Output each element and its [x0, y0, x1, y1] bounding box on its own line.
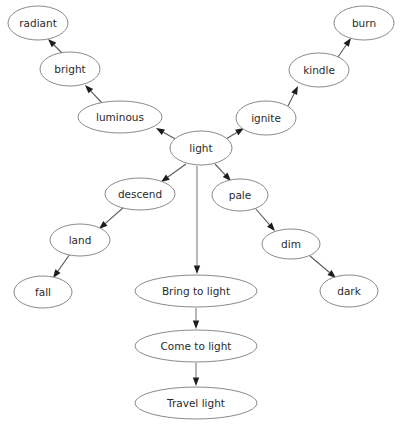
node-label: ignite — [251, 112, 281, 124]
edge-line — [105, 207, 124, 223]
node-bright[interactable]: bright — [40, 52, 100, 86]
node-kindle[interactable]: kindle — [289, 53, 349, 87]
node-burn[interactable]: burn — [334, 6, 394, 40]
edge-light-to-descend — [161, 164, 186, 182]
edge-line — [58, 254, 70, 271]
edge-line — [54, 45, 62, 53]
edge-light-to-pale — [215, 164, 231, 181]
node-label: kindle — [303, 64, 335, 76]
node-label: luminous — [96, 111, 144, 123]
edge-ignite-to-kindle — [288, 86, 298, 106]
edge-descend-to-land — [99, 207, 124, 229]
arrow-head-icon — [194, 266, 200, 275]
arrow-head-icon — [161, 174, 170, 182]
node-land[interactable]: land — [50, 224, 110, 256]
edge-dim-to-dark — [310, 256, 336, 278]
edge-line — [168, 164, 186, 177]
node-ignite[interactable]: ignite — [236, 101, 296, 135]
arrow-head-icon — [291, 86, 298, 95]
node-label: Come to light — [161, 340, 232, 352]
node-label: burn — [352, 17, 376, 29]
node-dim[interactable]: dim — [262, 229, 320, 259]
node-label: Bring to light — [162, 285, 230, 297]
node-fall[interactable]: fall — [14, 276, 72, 308]
node-light[interactable]: light — [170, 131, 232, 165]
concept-graph-canvas: radiantburnbrightkindleluminousignitelig… — [0, 0, 400, 426]
edge-light-to-luminous — [156, 128, 177, 140]
node-label: dim — [281, 238, 301, 250]
edge-kindle-to-burn — [338, 38, 351, 57]
edge-line — [226, 132, 237, 139]
node-label: land — [69, 234, 92, 246]
edge-line — [215, 164, 225, 175]
node-bring-to-light[interactable]: Bring to light — [135, 275, 257, 307]
node-label: pale — [229, 189, 251, 201]
arrow-head-icon — [193, 378, 199, 387]
node-label: light — [189, 142, 212, 154]
node-come-to-light[interactable]: Come to light — [135, 330, 257, 362]
node-radiant[interactable]: radiant — [8, 6, 68, 40]
arrow-head-icon — [156, 128, 165, 135]
edge-line — [91, 91, 103, 104]
edge-line — [338, 45, 346, 57]
node-luminous[interactable]: luminous — [78, 101, 162, 133]
node-label: descend — [118, 188, 162, 200]
node-label: fall — [35, 286, 51, 298]
node-label: bright — [54, 63, 85, 75]
node-label: dark — [337, 285, 361, 297]
edge-bring-to-light-to-come-to-light — [193, 308, 199, 329]
edge-bright-to-radiant — [48, 39, 62, 53]
edge-land-to-fall — [53, 254, 70, 278]
edge-come-to-light-to-travel-light — [193, 363, 199, 386]
edge-light-to-ignite — [226, 128, 244, 139]
concept-graph-svg: radiantburnbrightkindleluminousignitelig… — [0, 0, 400, 426]
edge-light-to-bring-to-light — [194, 166, 200, 274]
edge-pale-to-dim — [255, 208, 275, 231]
node-travel-light[interactable]: Travel light — [135, 387, 257, 419]
node-pale[interactable]: pale — [212, 179, 268, 211]
node-descend[interactable]: descend — [105, 178, 175, 210]
edge-line — [255, 208, 269, 225]
arrow-head-icon — [344, 38, 351, 47]
edge-luminous-to-bright — [85, 85, 103, 104]
node-label: radiant — [19, 17, 57, 29]
edge-line — [288, 94, 294, 106]
edge-line — [310, 256, 330, 273]
node-label: Travel light — [166, 397, 225, 409]
node-dark[interactable]: dark — [320, 275, 378, 307]
arrow-head-icon — [193, 321, 199, 330]
node-layer: radiantburnbrightkindleluminousignitelig… — [8, 6, 394, 419]
